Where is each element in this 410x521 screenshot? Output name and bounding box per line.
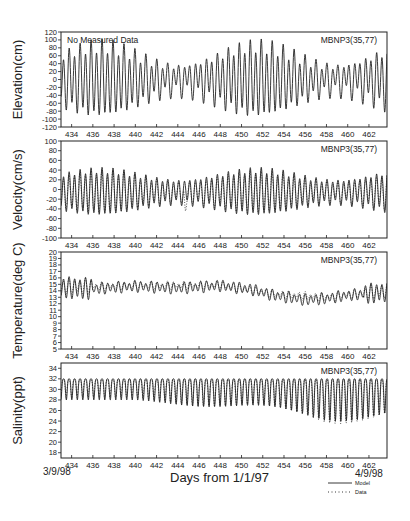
- x-tick-label: 434: [65, 130, 79, 139]
- x-tick-label: 444: [171, 130, 185, 139]
- x-tick-label: 442: [150, 130, 164, 139]
- x-tick-label: 438: [107, 352, 121, 361]
- x-tick-label: 450: [235, 461, 249, 470]
- x-tick-label: 438: [107, 461, 121, 470]
- x-tick-label: 460: [341, 130, 355, 139]
- x-tick-label: 456: [299, 130, 313, 139]
- x-tick-label: 438: [107, 241, 121, 250]
- start-date-label: 3/9/98: [43, 466, 71, 477]
- x-tick-label: 452: [256, 130, 270, 139]
- series-data: [61, 380, 387, 424]
- y-tick-label: -100: [42, 115, 57, 124]
- y-tick-label: -20: [46, 83, 57, 92]
- x-tick-label: 458: [320, 461, 334, 470]
- station-label: MBNP3(35,77): [321, 35, 377, 45]
- legend: Model Data: [328, 480, 370, 495]
- x-tick-label: 460: [341, 241, 355, 250]
- x-tick-label: 454: [277, 352, 291, 361]
- y-tick-label: 24: [49, 417, 57, 426]
- x-tick-label: 444: [171, 352, 185, 361]
- x-tick-label: 442: [150, 352, 164, 361]
- panel-velocity: -100-80-60-40-20020406080100434436438440…: [10, 137, 387, 251]
- y-tick-label: -100: [42, 234, 57, 243]
- y-tick-label: 20: [49, 438, 57, 447]
- y-tick-label: 20: [49, 67, 57, 76]
- y-tick-label: 20: [49, 248, 57, 257]
- x-tick-label: 456: [299, 352, 313, 361]
- x-tick-label: 454: [277, 241, 291, 250]
- y-axis-label: Velocity(cm/s): [10, 149, 25, 230]
- figure: -120-100-80-60-40-2002040608010012043443…: [0, 0, 410, 521]
- y-tick-label: 34: [49, 364, 57, 373]
- x-tick-label: 452: [256, 352, 270, 361]
- x-tick-label: 462: [362, 241, 376, 250]
- y-tick-label: -40: [46, 91, 57, 100]
- x-tick-label: 456: [299, 461, 313, 470]
- series-model: [61, 39, 387, 116]
- legend-data-label: Data: [355, 489, 368, 495]
- y-axis-label: Salinity(ppt): [10, 376, 25, 445]
- x-tick-label: 434: [65, 241, 79, 250]
- y-tick-label: -60: [46, 99, 57, 108]
- x-tick-label: 458: [320, 130, 334, 139]
- panels: -120-100-80-60-40-2002040608010012043443…: [10, 28, 387, 471]
- y-tick-label: 40: [49, 59, 57, 68]
- station-label: MBNP3(35,77): [321, 144, 377, 154]
- x-tick-label: 448: [214, 352, 228, 361]
- x-tick-label: 448: [214, 241, 228, 250]
- x-tick-label: 450: [235, 352, 249, 361]
- x-tick-label: 458: [320, 352, 334, 361]
- y-tick-label: -60: [46, 214, 57, 223]
- x-tick-label: 436: [86, 130, 100, 139]
- x-tick-label: 448: [214, 461, 228, 470]
- x-tick-label: 438: [107, 130, 121, 139]
- panel-salinity: 1820222426283032344344364384404424444464…: [10, 363, 387, 470]
- y-tick-label: 28: [49, 395, 57, 404]
- x-tick-label: 436: [86, 461, 100, 470]
- x-tick-label: 446: [192, 352, 206, 361]
- y-tick-label: 60: [49, 156, 57, 165]
- x-tick-label: 448: [214, 130, 228, 139]
- series-model: [61, 379, 387, 421]
- x-tick-label: 458: [320, 241, 334, 250]
- x-tick-label: 436: [86, 241, 100, 250]
- y-tick-label: -40: [46, 204, 57, 213]
- x-tick-label: 436: [86, 352, 100, 361]
- y-tick-label: 60: [49, 51, 57, 60]
- station-label: MBNP3(35,77): [321, 255, 377, 265]
- y-tick-label: 40: [49, 166, 57, 175]
- x-tick-label: 446: [192, 130, 206, 139]
- x-tick-label: 450: [235, 130, 249, 139]
- x-tick-label: 442: [150, 241, 164, 250]
- x-tick-label: 446: [192, 241, 206, 250]
- x-tick-label: 454: [277, 130, 291, 139]
- y-tick-label: -20: [46, 195, 57, 204]
- y-tick-label: 18: [49, 448, 57, 457]
- plot-frame: [61, 363, 387, 458]
- station-label: MBNP3(35,77): [321, 366, 377, 376]
- y-tick-label: 30: [49, 385, 57, 394]
- x-tick-label: 452: [256, 461, 270, 470]
- x-tick-label: 442: [150, 461, 164, 470]
- x-tick-label: 462: [362, 352, 376, 361]
- y-tick-label: 20: [49, 175, 57, 184]
- y-tick-label: 0: [53, 75, 57, 84]
- x-tick-label: 440: [129, 241, 143, 250]
- x-tick-label: 462: [362, 130, 376, 139]
- y-tick-label: 80: [49, 146, 57, 155]
- y-tick-label: 100: [44, 137, 57, 146]
- x-tick-label: 450: [235, 241, 249, 250]
- x-tick-label: 434: [65, 352, 79, 361]
- y-tick-label: 26: [49, 406, 57, 415]
- y-tick-label: 120: [44, 28, 57, 37]
- y-tick-label: -120: [42, 123, 57, 132]
- y-tick-label: 22: [49, 427, 57, 436]
- y-tick-label: -80: [46, 107, 57, 116]
- x-tick-label: 460: [341, 352, 355, 361]
- y-tick-label: 80: [49, 43, 57, 52]
- end-date-label: 4/9/98: [355, 468, 383, 479]
- x-tick-label: 440: [129, 352, 143, 361]
- x-tick-label: 454: [277, 461, 291, 470]
- y-tick-label: 100: [44, 35, 57, 44]
- y-axis-label: Elevation(cm): [10, 40, 25, 119]
